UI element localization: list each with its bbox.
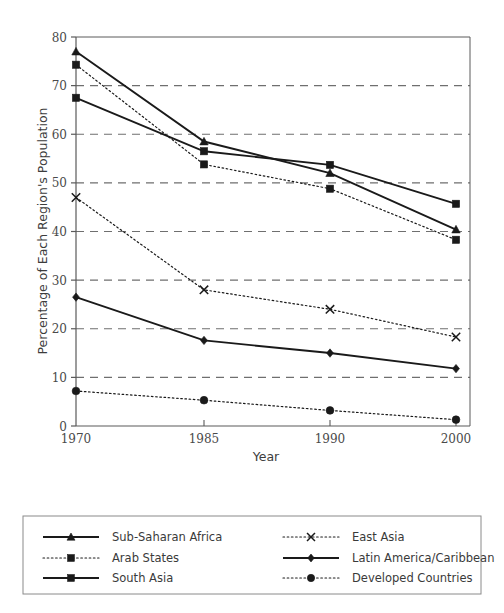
x-axis-title: Year	[252, 449, 280, 464]
x-tick-label: 1970	[61, 432, 92, 446]
legend-label: Sub-Saharan Africa	[112, 530, 222, 544]
marker-square	[72, 94, 79, 101]
y-tick-label: 50	[52, 176, 67, 190]
figure-container: 01020304050607080 1970198519902000 Perce…	[0, 0, 504, 613]
legend-label: East Asia	[352, 530, 405, 544]
marker-square	[68, 555, 75, 562]
legend-label: Latin America/Caribbean	[352, 551, 494, 565]
marker-square	[200, 148, 207, 155]
y-tick-label: 10	[52, 371, 67, 385]
marker-circle	[307, 574, 314, 581]
marker-square	[68, 575, 75, 582]
x-tick-label: 1985	[189, 432, 220, 446]
marker-square	[326, 161, 333, 168]
x-tick-label: 2000	[441, 432, 472, 446]
marker-square	[200, 161, 207, 168]
x-tick-label: 1990	[315, 432, 346, 446]
legend-label: Developed Countries	[352, 571, 473, 585]
line-chart: 01020304050607080 1970198519902000 Perce…	[0, 0, 504, 613]
marker-circle	[72, 387, 80, 395]
y-tick-label: 30	[52, 274, 67, 288]
legend-label: South Asia	[112, 571, 173, 585]
marker-square	[72, 61, 79, 68]
y-tick-label: 70	[52, 79, 67, 93]
y-tick-label: 80	[52, 31, 67, 45]
y-tick-label: 40	[52, 225, 67, 239]
marker-circle	[200, 396, 208, 404]
marker-square	[326, 185, 333, 192]
y-tick-label: 20	[52, 322, 67, 336]
marker-circle	[452, 416, 460, 424]
y-axis-title: Percentage of Each Region's Population	[35, 107, 50, 354]
marker-square	[452, 236, 459, 243]
legend-label: Arab States	[112, 551, 179, 565]
y-tick-label: 60	[52, 128, 67, 142]
marker-circle	[326, 407, 334, 415]
marker-square	[452, 200, 459, 207]
